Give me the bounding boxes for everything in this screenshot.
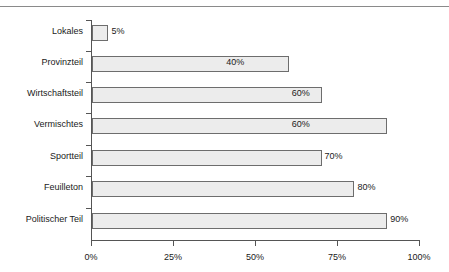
category-label: Wirtschaftsteil — [0, 88, 83, 99]
bar-feuilleton — [92, 181, 354, 197]
bar-sportteil — [92, 150, 322, 166]
chart-row: Wirtschaftsteil 60% — [0, 82, 449, 113]
x-axis-tick — [91, 241, 92, 246]
category-label: Feuilleton — [0, 182, 83, 193]
category-label: Politischer Teil — [0, 214, 83, 225]
x-axis-tick-label: 100% — [389, 252, 449, 263]
bar-wirtschaftsteil — [92, 87, 322, 103]
bar-politischer-teil — [92, 213, 387, 229]
chart-row: Provinzteil 40% — [0, 51, 449, 82]
chart-row: Lokales 5% — [0, 20, 449, 51]
category-label: Sportteil — [0, 151, 83, 162]
bar-value-label: 80% — [357, 182, 375, 193]
chart-row: Feuilleton 80% — [0, 176, 449, 207]
x-axis-tick — [419, 241, 420, 246]
x-axis-tick-label: 25% — [143, 252, 203, 263]
chart-figure: Lokales 5% Provinzteil 40% Wirtschaftste… — [0, 0, 449, 272]
bar-value-label: 40% — [226, 57, 423, 68]
x-axis-tick — [173, 241, 174, 246]
chart-row: Sportteil 70% — [0, 145, 449, 176]
bar-vermischtes — [92, 118, 387, 134]
bar-value-label: 60% — [292, 88, 449, 99]
category-label: Lokales — [0, 26, 83, 37]
x-axis-tick-label: 75% — [307, 252, 367, 263]
bar-value-label: 5% — [111, 26, 242, 37]
category-label: Provinzteil — [0, 57, 83, 68]
x-axis-tick — [255, 241, 256, 246]
x-axis-tick-label: 50% — [225, 252, 285, 263]
chart-row: Vermischtes 60% — [0, 113, 449, 144]
x-axis-tick — [337, 241, 338, 246]
bar-value-label: 90% — [390, 214, 408, 225]
chart-row: Politischer Teil 90% — [0, 208, 449, 239]
bar-value-label: 70% — [325, 151, 343, 162]
bar-value-label: 60% — [292, 119, 310, 130]
bar-lokales — [92, 25, 108, 41]
x-axis-tick-label: 0% — [61, 252, 121, 263]
plot-area: Lokales 5% Provinzteil 40% Wirtschaftste… — [0, 0, 449, 272]
category-label: Vermischtes — [0, 119, 83, 130]
